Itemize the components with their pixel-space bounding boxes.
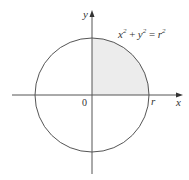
origin-label: 0 — [82, 97, 87, 108]
equation: x2+y2=r2 — [117, 27, 166, 40]
radius-label: r — [151, 95, 156, 107]
circle-diagram: y x 0 r x2+y2=r2 — [0, 0, 189, 180]
y-axis-arrow-icon — [90, 10, 95, 17]
shaded-quarter-region — [92, 38, 149, 95]
svg-text:x2+y2=r2: x2+y2=r2 — [117, 27, 166, 40]
x-axis-label: x — [175, 96, 181, 108]
y-axis-label: y — [82, 8, 88, 20]
